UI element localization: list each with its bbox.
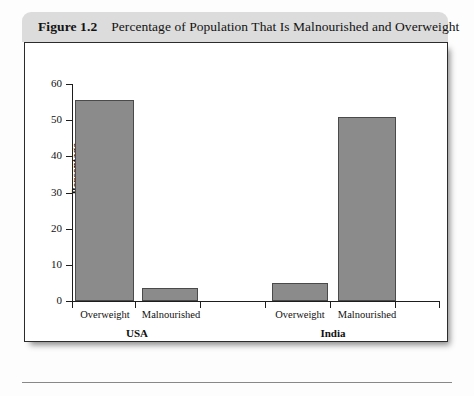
figure-number-label: Figure 1.2 [38, 19, 97, 35]
y-tick-label-60: 60 [36, 77, 62, 89]
x-tick-4 [330, 302, 331, 308]
bar-india-malnourished [338, 117, 396, 301]
x-tick-5 [395, 302, 396, 308]
y-tick-label-30: 30 [36, 186, 62, 198]
x-axis-line [72, 301, 440, 302]
chart-card: Percentage 60 50 40 30 20 10 0 [24, 42, 448, 342]
bar-label-india-overweight: Overweight [264, 309, 336, 320]
group-label-usa: USA [101, 327, 173, 339]
x-tick-2 [200, 302, 201, 308]
y-tick-40 [66, 156, 73, 157]
chart-plot-area: Percentage 60 50 40 30 20 10 0 [25, 43, 449, 343]
y-tick-label-50: 50 [36, 113, 62, 125]
figure-title-label: Percentage of Population That Is Malnour… [111, 19, 459, 35]
x-tick-6 [439, 302, 440, 308]
y-tick-10 [66, 265, 73, 266]
y-tick-label-0: 0 [36, 294, 62, 306]
figure-caption-banner: Figure 1.2 Percentage of Population That… [22, 12, 448, 42]
bar-usa-overweight [75, 100, 134, 301]
page-footer-rule [22, 382, 452, 383]
bar-usa-malnourished [142, 288, 198, 301]
x-tick-3 [265, 302, 266, 308]
y-tick-label-40: 40 [36, 149, 62, 161]
bar-india-overweight [272, 283, 328, 301]
x-tick-0 [72, 302, 73, 308]
y-tick-20 [66, 229, 73, 230]
y-tick-50 [66, 120, 73, 121]
y-tick-label-20: 20 [36, 222, 62, 234]
figure-page: Figure 1.2 Percentage of Population That… [0, 0, 474, 396]
y-tick-60 [66, 84, 73, 85]
x-tick-1 [135, 302, 136, 308]
group-label-india: India [297, 327, 369, 339]
bar-label-india-malnourished: Malnourished [329, 309, 405, 320]
bar-label-usa-malnourished: Malnourished [133, 309, 209, 320]
bar-label-usa-overweight: Overweight [69, 309, 141, 320]
y-tick-label-10: 10 [36, 258, 62, 270]
y-tick-30 [66, 193, 73, 194]
